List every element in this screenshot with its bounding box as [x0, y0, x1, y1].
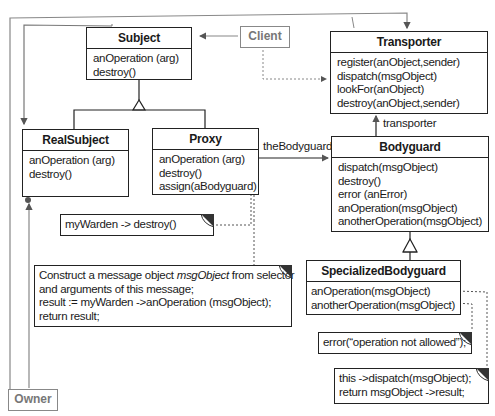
note-line: and arguments of this message; [39, 283, 275, 297]
class-real-subject[interactable]: RealSubject anOperation (arg) destroy() [22, 129, 129, 197]
class-transporter-title: Transporter [331, 32, 487, 53]
class-transporter[interactable]: Transporter register(anObject,sender) di… [330, 31, 488, 114]
class-transporter-operations: register(anObject,sender) dispatch(msgOb… [331, 53, 487, 113]
class-real-subject-operations: anOperation (arg) destroy() [23, 151, 128, 184]
actor-client[interactable]: Client [240, 26, 290, 48]
operation: anotherOperation(msgObject) [311, 299, 455, 313]
class-bodyguard-title: Bodyguard [332, 137, 488, 158]
class-subject-operations: anOperation (arg) destroy() [87, 49, 191, 82]
actor-owner-label: Owner [14, 392, 51, 406]
note-specialized-operation: this ->dispatch(msgObject); return msgOb… [334, 368, 489, 404]
note-line: return msgObject ->result; [339, 386, 472, 400]
operation: destroy() [159, 167, 253, 181]
note-corner-icon [201, 214, 214, 227]
class-proxy-title: Proxy [153, 129, 258, 150]
note-line: this ->dispatch(msgObject); [339, 372, 472, 386]
note-text: myWarden -> destroy() [65, 218, 176, 230]
class-real-subject-title: RealSubject [23, 130, 128, 151]
operation: anOperation (arg) [29, 154, 123, 168]
note-text: error(“operation not allowed”); [323, 336, 466, 348]
note-line: result := myWarden ->anOperation (msgObj… [39, 296, 275, 310]
class-bodyguard-operations: dispatch(msgObject) destroy() error (anE… [332, 158, 488, 232]
operation: assign(aBodyguard) [159, 180, 253, 194]
note-proxy-destroy: myWarden -> destroy() [60, 214, 214, 236]
actor-client-label: Client [248, 29, 281, 43]
operation: destroy() [93, 66, 186, 80]
operation: register(anObject,sender) [337, 56, 482, 70]
class-specialized-bodyguard-operations: anOperation(msgObject) anotherOperation(… [307, 282, 460, 315]
class-specialized-bodyguard-title: SpecializedBodyguard [307, 261, 460, 282]
class-proxy[interactable]: Proxy anOperation (arg) destroy() assign… [152, 128, 259, 195]
association-label-transporter: transporter [383, 117, 436, 129]
operation: dispatch(msgObject) [338, 161, 483, 175]
operation: dispatch(msgObject) [337, 70, 482, 84]
class-subject-title: Subject [87, 28, 191, 49]
operation: destroy(anObject,sender) [337, 97, 482, 111]
association-label-the-bodyguard: theBodyguard [263, 140, 332, 152]
note-corner-icon [279, 265, 292, 278]
actor-owner[interactable]: Owner [8, 389, 58, 411]
note-line: Construct a message object msgObject fro… [39, 269, 275, 283]
note-specialized-another-operation: error(“operation not allowed”); [318, 332, 472, 354]
note-proxy-operation: Construct a message object msgObject fro… [34, 265, 292, 327]
note-corner-icon [459, 332, 472, 345]
operation: error (anError) [338, 188, 483, 202]
operation: anotherOperation(msgObject) [338, 215, 483, 229]
uml-diagram: Subject anOperation (arg) destroy() Clie… [0, 0, 495, 416]
note-line: return result; [39, 310, 275, 324]
class-proxy-operations: anOperation (arg) destroy() assign(aBody… [153, 150, 258, 197]
operation: lookFor(anObject) [337, 83, 482, 97]
operation: anOperation(msgObject) [338, 202, 483, 216]
operation: anOperation (arg) [93, 52, 186, 66]
operation: anOperation(msgObject) [311, 285, 455, 299]
class-bodyguard[interactable]: Bodyguard dispatch(msgObject) destroy() … [331, 136, 489, 232]
operation: destroy() [29, 168, 123, 182]
operation: destroy() [338, 175, 483, 189]
operation: anOperation (arg) [159, 153, 253, 167]
note-corner-icon [476, 368, 489, 381]
class-specialized-bodyguard[interactable]: SpecializedBodyguard anOperation(msgObje… [306, 260, 461, 315]
class-subject[interactable]: Subject anOperation (arg) destroy() [86, 27, 192, 80]
